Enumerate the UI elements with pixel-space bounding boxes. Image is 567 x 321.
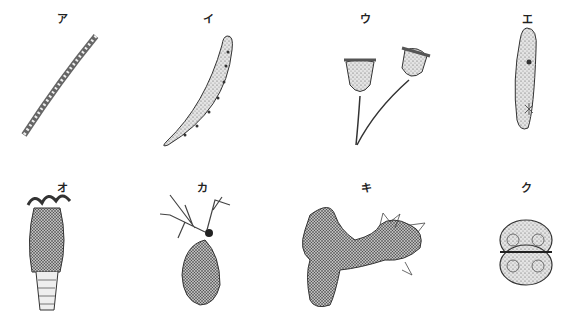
closterium-drawing xyxy=(164,36,233,146)
organism-illustrations xyxy=(0,0,567,321)
filamentous-alga-drawing xyxy=(24,36,96,135)
vorticella-drawing xyxy=(344,48,430,145)
rotifer-drawing xyxy=(28,196,70,310)
daphnia-drawing xyxy=(160,195,230,305)
amoeba-drawing xyxy=(302,208,425,307)
cosmarium-drawing xyxy=(500,220,552,285)
paramecium-drawing xyxy=(515,28,536,129)
